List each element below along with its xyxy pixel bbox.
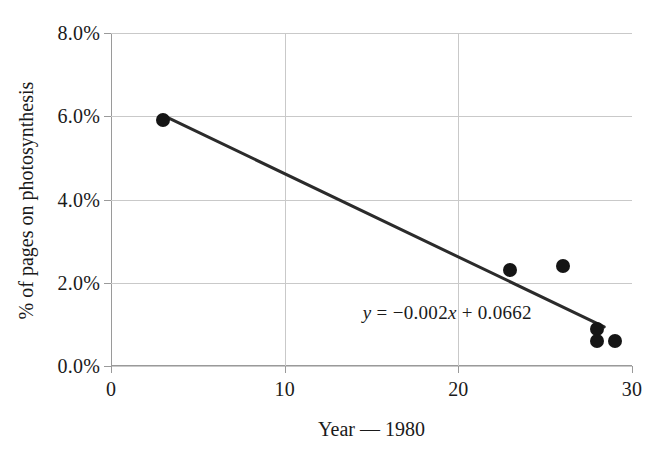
gridline-horizontal	[111, 366, 632, 367]
y-axis-title-text: % of pages on photosynthesis	[16, 81, 39, 319]
x-tick-label: 10	[274, 378, 294, 401]
y-tick-label: 4.0%	[58, 188, 100, 211]
x-tick-mark	[458, 366, 459, 373]
equation-intercept: 0.0662	[478, 302, 532, 323]
gridline-horizontal	[111, 200, 632, 201]
gridline-horizontal	[111, 283, 632, 284]
equation-y-variable: y	[363, 302, 372, 323]
data-point	[156, 113, 170, 127]
x-tick-mark	[285, 366, 286, 373]
y-tick-label: 6.0%	[58, 105, 100, 128]
y-axis-title: % of pages on photosynthesis	[10, 0, 44, 400]
gridline-horizontal	[111, 33, 632, 34]
y-tick-mark	[104, 33, 111, 34]
equation-plus: +	[457, 302, 478, 323]
x-tick-label: 30	[622, 378, 642, 401]
gridline-horizontal	[111, 116, 632, 117]
trendline-equation-label: y = −0.002x + 0.0662	[363, 302, 532, 324]
y-tick-mark	[104, 200, 111, 201]
x-axis-title: Year — 1980	[111, 418, 632, 441]
y-tick-mark	[104, 116, 111, 117]
data-point	[608, 334, 622, 348]
data-point	[590, 334, 604, 348]
equation-equals: =	[372, 302, 393, 323]
x-tick-mark	[111, 366, 112, 373]
y-tick-label: 8.0%	[58, 22, 100, 45]
trendline-segment	[163, 115, 604, 326]
x-tick-label: 0	[106, 378, 116, 401]
data-point	[556, 259, 570, 273]
scatter-chart: % of pages on photosynthesis 0.0%2.0%4.0…	[0, 0, 667, 463]
equation-x-variable: x	[448, 302, 457, 323]
y-tick-mark	[104, 366, 111, 367]
data-point	[503, 263, 517, 277]
y-tick-label: 0.0%	[58, 355, 100, 378]
y-tick-label: 2.0%	[58, 271, 100, 294]
gridline-vertical	[285, 33, 286, 366]
y-tick-mark	[104, 283, 111, 284]
x-tick-mark	[632, 366, 633, 373]
x-tick-label: 20	[448, 378, 468, 401]
equation-slope: −0.002	[393, 302, 448, 323]
